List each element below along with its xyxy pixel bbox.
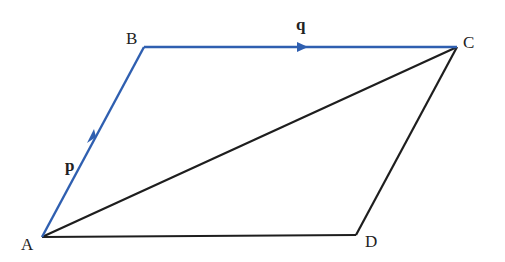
vector-label-p: p bbox=[65, 156, 74, 175]
point-label-d: D bbox=[365, 232, 377, 251]
segment-ac bbox=[42, 47, 457, 237]
parallelogram-diagram: A B C D p q bbox=[0, 0, 505, 262]
vector-label-q: q bbox=[296, 15, 306, 34]
vector-q-arrowhead bbox=[297, 42, 308, 52]
point-label-a: A bbox=[21, 235, 34, 254]
segment-cd bbox=[356, 47, 457, 235]
vector-p-line bbox=[42, 47, 144, 237]
point-label-c: C bbox=[463, 33, 474, 52]
point-label-b: B bbox=[126, 29, 137, 48]
segment-da bbox=[42, 235, 356, 237]
